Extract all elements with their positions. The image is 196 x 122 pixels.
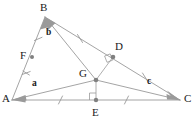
segment-GD xyxy=(96,57,113,80)
vertex-label-D: D xyxy=(115,41,123,52)
geometry-figure: .ln { stroke: #9a9a9a; stroke-width: 0.9… xyxy=(0,0,196,122)
vertex-label-G: G xyxy=(79,68,87,79)
vertex-label-E: E xyxy=(92,107,99,118)
point-G xyxy=(94,78,99,83)
vertex-label-F: F xyxy=(20,50,26,61)
point-E xyxy=(94,98,98,102)
vector-label-a: a xyxy=(32,79,37,89)
vertex-label-B: B xyxy=(40,2,47,13)
segment-AB xyxy=(12,17,45,100)
vertex-label-A: A xyxy=(2,93,10,104)
vector-label-c: c xyxy=(147,77,151,87)
vertex-label-C: C xyxy=(184,93,191,104)
segment-BG xyxy=(45,17,96,80)
tick-mark-AF-double xyxy=(22,71,30,75)
tick-mark-BD xyxy=(78,35,83,43)
diagram-canvas: .ln { stroke: #9a9a9a; stroke-width: 0.9… xyxy=(0,0,196,122)
point-F xyxy=(30,55,34,59)
tick-mark-FB-single xyxy=(35,37,43,40)
point-D xyxy=(111,55,116,60)
vector-label-b: b xyxy=(46,28,51,38)
